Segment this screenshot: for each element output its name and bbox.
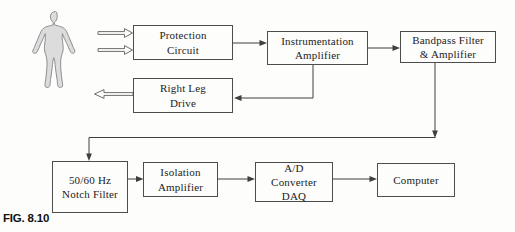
- connector-instrumentation-to-right-leg-drive: [234, 65, 313, 101]
- block-computer-label: Computer: [393, 173, 439, 187]
- block-bandpass-filter-amplifier: Bandpass Filter & Amplifier: [400, 31, 496, 63]
- block-bandpass-filter-amplifier-label: Bandpass Filter & Amplifier: [412, 33, 484, 61]
- right-leg-electrode-arrow-icon: [95, 90, 134, 99]
- block-ad-converter-daq: A/D Converter DAQ: [255, 162, 333, 202]
- electrode-arrow-bottom-icon: [98, 46, 133, 55]
- block-instrumentation-amplifier-label: Instrumentation Amplifier: [281, 34, 354, 62]
- connector-protection-to-instrumentation: [233, 40, 267, 46]
- block-isolation-amplifier: Isolation Amplifier: [143, 162, 218, 197]
- electrode-arrow-top-icon: [98, 29, 133, 38]
- human-body-icon: [33, 12, 75, 88]
- figure-number-label: FIG. 8.10: [3, 212, 49, 226]
- block-isolation-amplifier-label: Isolation Amplifier: [158, 165, 203, 193]
- block-right-leg-drive: Right Leg Drive: [133, 78, 233, 113]
- block-notch-filter: 50/60 Hz Notch Filter: [52, 161, 128, 213]
- connector-notch-to-isolation: [128, 176, 144, 182]
- block-instrumentation-amplifier: Instrumentation Amplifier: [267, 31, 368, 65]
- block-notch-filter-label: 50/60 Hz Notch Filter: [62, 173, 118, 201]
- figure-8-10-diagram: Protection Circuit Instrumentation Ampli…: [0, 0, 515, 232]
- connector-isolation-to-adc: [218, 176, 255, 182]
- connector-instrumentation-to-bandpass: [368, 45, 400, 51]
- block-computer: Computer: [377, 163, 455, 197]
- block-protection-circuit-label: Protection Circuit: [159, 28, 206, 56]
- block-protection-circuit: Protection Circuit: [133, 25, 233, 60]
- block-ad-converter-daq-label: A/D Converter DAQ: [271, 161, 317, 203]
- connector-adc-to-computer: [333, 176, 377, 182]
- block-right-leg-drive-label: Right Leg Drive: [160, 81, 206, 109]
